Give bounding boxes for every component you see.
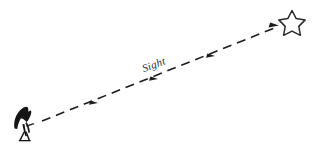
diagram-canvas: Sight — [0, 0, 314, 155]
scene-svg: Sight — [0, 0, 314, 155]
background — [0, 0, 314, 155]
observer-base-tick — [19, 140, 31, 141]
